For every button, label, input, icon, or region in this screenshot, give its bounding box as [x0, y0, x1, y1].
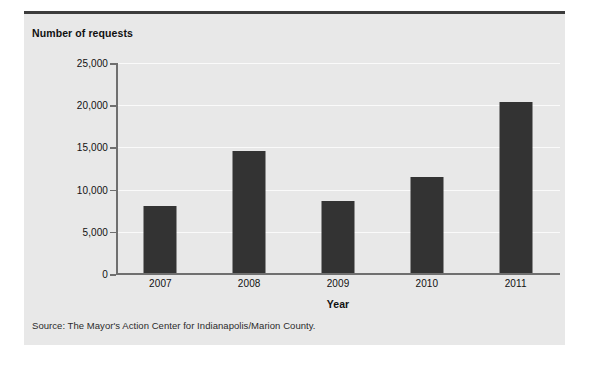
cropped-header-text [24, 0, 564, 4]
bar-slot [205, 63, 294, 274]
bar-slot [294, 63, 383, 274]
y-axis-tick-labels: 05,00010,00015,00020,00025,000 [38, 63, 108, 274]
x-axis-tick-labels: 20072008200920102011 [116, 278, 560, 294]
y-axis-tick-label: 5,000 [38, 226, 108, 237]
y-axis-title: Number of requests [32, 27, 133, 39]
x-axis-tick-label: 2009 [327, 278, 350, 289]
bar-slot [382, 63, 471, 274]
x-axis-tick-label: 2010 [415, 278, 438, 289]
y-axis-tick-label: 15,000 [38, 142, 108, 153]
y-axis-tick [110, 147, 116, 149]
bar[interactable] [144, 206, 177, 274]
y-axis-tick-label: 10,000 [38, 184, 108, 195]
y-axis-line [116, 63, 118, 274]
bar-series [116, 63, 560, 274]
bar[interactable] [233, 151, 266, 274]
y-axis-tick-label: 0 [38, 269, 108, 280]
plot-area [116, 63, 560, 274]
y-axis-tick [110, 232, 116, 234]
bar[interactable] [321, 201, 354, 274]
bar[interactable] [410, 177, 443, 274]
y-axis-tick [110, 190, 116, 192]
chart-figure: Number of requests 05,00010,00015,00020,… [0, 0, 589, 366]
x-axis-line [116, 273, 560, 275]
y-axis-tick [110, 105, 116, 107]
bar-slot [471, 63, 560, 274]
source-note: Source: The Mayor's Action Center for In… [32, 320, 316, 331]
bar[interactable] [499, 102, 532, 274]
bar-slot [116, 63, 205, 274]
x-axis-tick-label: 2008 [238, 278, 261, 289]
x-axis-tick-label: 2007 [149, 278, 172, 289]
x-axis-title: Year [116, 298, 560, 310]
y-axis-tick-label: 20,000 [38, 100, 108, 111]
x-axis-tick-label: 2011 [505, 278, 527, 289]
y-axis-tick [110, 63, 116, 65]
y-axis-tick-label: 25,000 [38, 58, 108, 69]
